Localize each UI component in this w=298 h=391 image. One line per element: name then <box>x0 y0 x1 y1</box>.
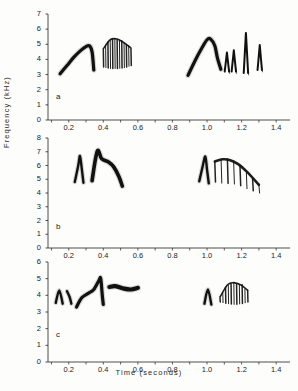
panel-c-ytick-3: 3 <box>25 308 41 316</box>
panel-c-xtick-1.2: 1.2 <box>231 366 253 374</box>
trace-c-buzz-2 <box>220 282 248 304</box>
spectrogram-figure: Frequency (kHz) Time (seconds) 012345670… <box>0 0 298 391</box>
panel-c-ytick-5: 5 <box>25 275 41 283</box>
panel-c-xtick-0.8: 0.8 <box>161 366 183 374</box>
panel-c-xtick-0.2: 0.2 <box>58 366 80 374</box>
panel-c-letter: c <box>56 330 60 339</box>
panel-c-ytick-4: 4 <box>25 291 41 299</box>
panel-c-xtick-1.0: 1.0 <box>196 366 218 374</box>
panel-c-ytick-2: 2 <box>25 325 41 333</box>
panel-c-xtick-0.6: 0.6 <box>127 366 149 374</box>
trace-c-flat-bar <box>109 286 138 289</box>
panel-c-ytick-1: 1 <box>25 341 41 349</box>
panel-c-xtick-0.4: 0.4 <box>92 366 114 374</box>
panel-c-ytick-6: 6 <box>25 258 41 266</box>
trace-c-tick-1 <box>56 290 63 303</box>
panel-c-ytick-0: 0 <box>25 358 41 366</box>
panel-c-plot <box>0 0 298 391</box>
trace-c-rising-sweep <box>77 277 104 307</box>
panel-c-xtick-1.4: 1.4 <box>265 366 287 374</box>
trace-c-tick-2 <box>67 291 71 304</box>
trace-c-tick-3 <box>204 289 211 304</box>
